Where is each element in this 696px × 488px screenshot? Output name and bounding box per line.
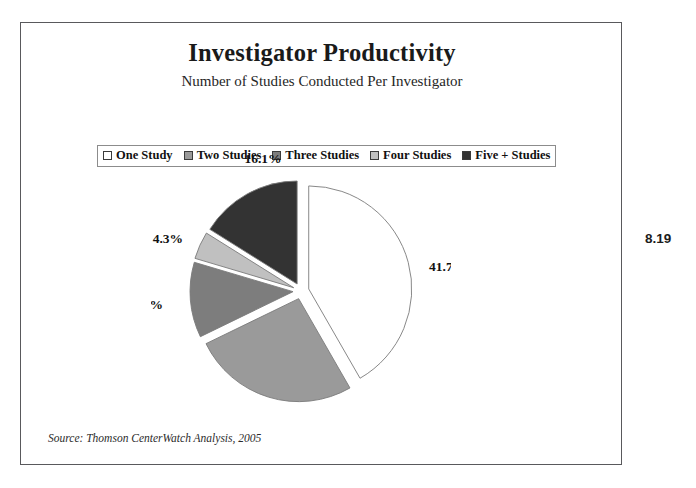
- pie-chart: 41.7%26.1%11.8%4.3%16.1%: [151, 153, 451, 423]
- pie-slice-label: 11.8%: [151, 297, 163, 312]
- pie-slice-label: 16.1%: [244, 153, 281, 166]
- chart-area: 41.7%26.1%11.8%4.3%16.1%: [21, 23, 623, 466]
- pie-slice-label: 41.7%: [429, 259, 451, 274]
- figure-frame: Investigator Productivity Number of Stud…: [20, 22, 622, 465]
- figure-number: 8.19: [645, 231, 671, 246]
- pie-slice-label: 26.1%: [254, 419, 291, 423]
- source-note: Source: Thomson CenterWatch Analysis, 20…: [48, 432, 261, 444]
- figure-page: 8.19 Investigator Productivity Number of…: [0, 0, 696, 488]
- pie-slice-label: 4.3%: [153, 231, 183, 246]
